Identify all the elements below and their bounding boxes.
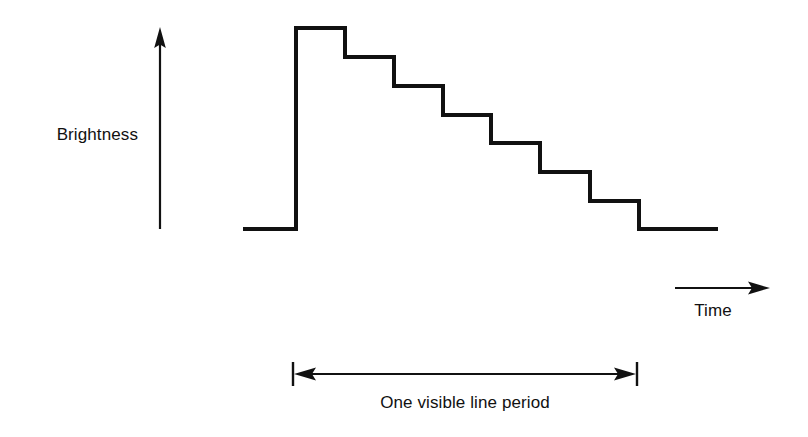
period-dimension-line [293,362,637,386]
period-annotation-label: One visible line period [315,393,615,413]
waveform-trace [243,28,718,229]
figure-root: Brightness Time One visible line period [0,0,808,437]
diagram-canvas [0,0,808,437]
time-axis-arrow [675,282,770,295]
brightness-axis-label: Brightness [38,125,138,145]
time-axis-label: Time [663,301,763,321]
brightness-waveform [243,28,718,229]
brightness-axis-arrow [154,27,166,229]
